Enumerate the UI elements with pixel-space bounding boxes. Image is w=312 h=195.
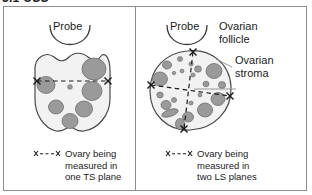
transverse-section-diagram <box>4 7 135 147</box>
longitudinal-section-diagram <box>136 7 306 147</box>
follicle <box>195 66 202 72</box>
follicle <box>82 58 106 80</box>
follicle <box>218 82 225 89</box>
caption-line: measured in <box>197 160 257 172</box>
follicle <box>180 69 184 73</box>
caption-text: Ovary being measured in two LS planes <box>197 148 257 183</box>
follicle <box>76 101 93 117</box>
caption-line: measured in <box>65 160 121 172</box>
follicle <box>177 57 182 62</box>
caption-key-icon <box>33 149 61 159</box>
caption-text: Ovary being measured in one TS plane <box>65 148 121 183</box>
probe-arc-icon <box>167 25 207 45</box>
caption-transverse: Ovary being measured in one TS plane <box>34 148 121 183</box>
follicle <box>206 64 222 79</box>
figure-root: 3.1 USS Probe <box>0 0 312 195</box>
caption-line: two LS planes <box>197 171 257 183</box>
follicle <box>198 93 202 97</box>
follicle <box>153 72 168 86</box>
caption-line: one TS plane <box>65 171 121 183</box>
follicle <box>157 92 163 98</box>
follicle <box>49 100 64 114</box>
section-heading: 3.1 USS <box>2 0 49 5</box>
follicle <box>161 101 171 110</box>
follicle <box>198 103 213 117</box>
caption-key-icon <box>165 149 193 159</box>
caption-line: Ovary being <box>197 148 257 160</box>
follicle <box>203 81 209 87</box>
follicle <box>68 85 73 90</box>
follicle <box>163 61 172 69</box>
follicle <box>172 71 176 74</box>
caption-longitudinal: Ovary being measured in two LS planes <box>166 148 257 183</box>
follicle <box>82 82 102 101</box>
follicle <box>189 101 193 105</box>
probe-arc-icon <box>50 25 90 45</box>
follicle <box>62 114 78 129</box>
follicle <box>171 98 176 103</box>
follicle <box>191 73 195 77</box>
caption-line: Ovary being <box>65 148 121 160</box>
panel-longitudinal-section: Probe Ovarian follicle Ovarian stroma <box>136 7 306 190</box>
panel-transverse-section: Probe <box>4 7 135 190</box>
follicle <box>183 112 194 122</box>
figure-frame: Probe <box>3 6 307 191</box>
